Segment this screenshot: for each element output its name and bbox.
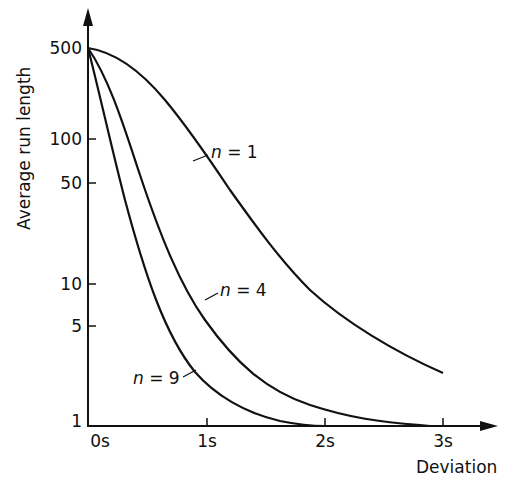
y-tick-label-5: 5 bbox=[22, 318, 82, 335]
y-tick-label-50: 50 bbox=[22, 175, 82, 192]
leader-n9 bbox=[183, 370, 196, 377]
curve-n9 bbox=[88, 48, 325, 426]
annotation-n4: n = 4 bbox=[220, 282, 267, 299]
x-tick-label-2s: 2s bbox=[305, 433, 345, 450]
y-tick-label-100: 100 bbox=[22, 131, 82, 148]
leader-n1 bbox=[193, 155, 208, 161]
n-symbol: n bbox=[220, 280, 231, 300]
annotation-value: = 4 bbox=[231, 280, 267, 300]
curve-n1 bbox=[88, 48, 443, 373]
y-axis-arrow-icon bbox=[83, 8, 93, 26]
y-tick-label-500: 500 bbox=[22, 40, 82, 57]
annotation-n9: n = 9 bbox=[133, 370, 180, 387]
leader-n4 bbox=[205, 293, 218, 300]
y-ticks bbox=[88, 139, 96, 326]
annotation-value: = 1 bbox=[222, 142, 258, 162]
x-tick-label-1s: 1s bbox=[187, 433, 227, 450]
y-axis-label: Average run length bbox=[14, 67, 34, 230]
x-tick-label-3s: 3s bbox=[423, 433, 463, 450]
x-tick-label-0s: 0s bbox=[80, 433, 120, 450]
y-tick-label-1: 1 bbox=[22, 413, 82, 430]
x-axis-label: Deviation bbox=[416, 459, 497, 476]
annotation-value: = 9 bbox=[144, 368, 180, 388]
y-tick-label-10: 10 bbox=[22, 276, 82, 293]
n-symbol: n bbox=[133, 368, 144, 388]
n-symbol: n bbox=[211, 142, 222, 162]
x-axis-arrow-icon bbox=[480, 421, 498, 431]
annotation-n1: n = 1 bbox=[211, 144, 258, 161]
